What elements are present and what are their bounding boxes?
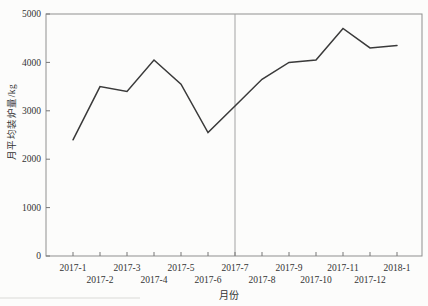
x-tick-label: 2017-12: [354, 275, 386, 285]
plot-frame: [46, 14, 422, 256]
x-tick-label: 2017-3: [114, 263, 141, 273]
x-tick-label: 2017-10: [300, 275, 332, 285]
y-tick-label: 4000: [22, 58, 41, 68]
y-axis-title: 月平均装炉量/kg: [4, 62, 18, 182]
x-tick-label: 2017-11: [327, 263, 359, 273]
chart-canvas: 0100020003000400050002017-12017-22017-32…: [0, 0, 428, 306]
y-tick-label: 5000: [22, 9, 41, 19]
y-tick-label: 2000: [22, 154, 41, 164]
x-tick-label: 2017-1: [60, 263, 87, 273]
y-tick-label: 0: [36, 251, 41, 261]
x-axis-title: 月份: [129, 287, 329, 302]
x-tick-label: 2017-9: [276, 263, 303, 273]
chart-figure: 0100020003000400050002017-12017-22017-32…: [0, 0, 428, 306]
x-tick-label: 2017-2: [87, 275, 114, 285]
x-tick-label: 2018-1: [384, 263, 411, 273]
scan-artifact: [0, 297, 140, 299]
x-tick-label: 2017-5: [168, 263, 195, 273]
x-tick-label: 2017-7: [222, 263, 249, 273]
y-tick-label: 3000: [22, 106, 41, 116]
y-tick-label: 1000: [22, 203, 41, 213]
x-tick-label: 2017-8: [249, 275, 276, 285]
x-tick-label: 2017-6: [195, 275, 222, 285]
x-tick-label: 2017-4: [141, 275, 168, 285]
